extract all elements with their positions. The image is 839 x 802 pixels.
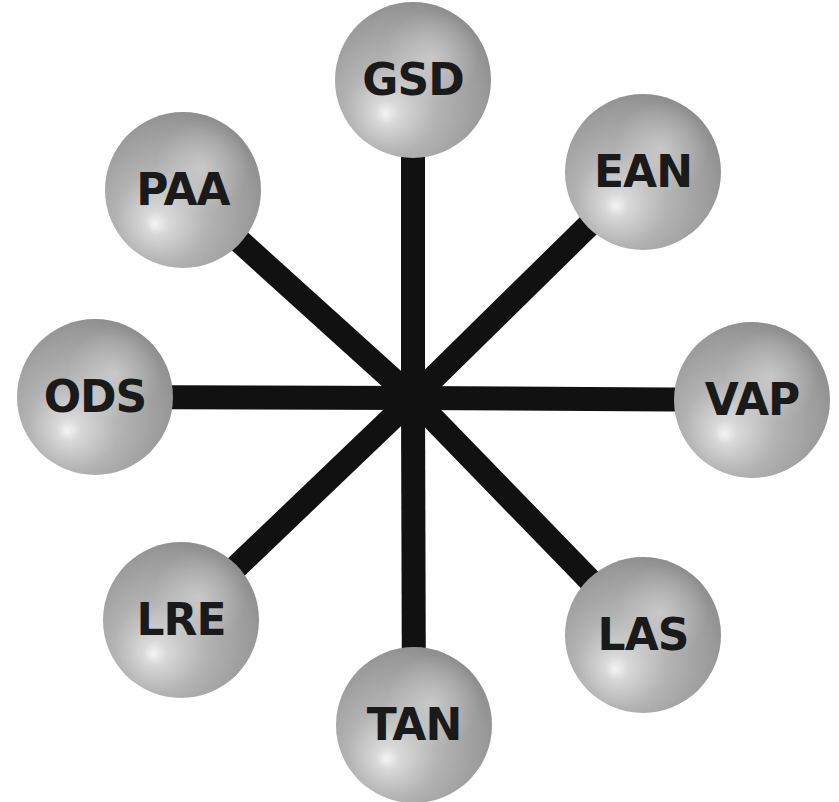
node-tan: TAN: [336, 647, 492, 802]
node-ean: EAN: [565, 94, 721, 250]
hub-spoke-diagram: GSDEANVAPLASTANLREODSPAA: [0, 0, 839, 802]
node-las: LAS: [565, 557, 721, 713]
node-vap: VAP: [674, 322, 830, 478]
node-lre: LRE: [103, 542, 259, 698]
node-label: EAN: [594, 146, 692, 197]
node-paa: PAA: [105, 112, 261, 268]
node-label: LAS: [598, 609, 689, 660]
node-label: LRE: [137, 594, 226, 645]
node-ods: ODS: [17, 319, 173, 475]
node-label: PAA: [136, 164, 230, 215]
node-label: TAN: [367, 699, 461, 750]
node-label: ODS: [44, 371, 147, 422]
node-label: GSD: [362, 54, 463, 105]
node-label: VAP: [705, 374, 799, 425]
node-gsd: GSD: [335, 2, 491, 158]
